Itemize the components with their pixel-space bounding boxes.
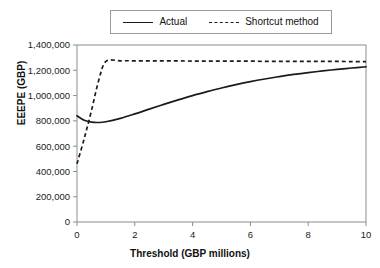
- plot-area: 0200,000400,000600,000800,0001,000,0001,…: [0, 0, 380, 268]
- x-axis-title: Threshold (GBP millions): [0, 248, 380, 259]
- series-line-actual: [77, 67, 366, 123]
- x-axis-tick-labels: 0246810: [74, 229, 371, 240]
- y-axis-tick-marks: [73, 45, 77, 222]
- x-axis-tick-marks: [77, 222, 366, 226]
- chart-figure: Actual Shortcut method 0200,000400,00060…: [0, 0, 380, 268]
- y-axis-title-wrap: EEEPE (GBP): [11, 13, 29, 173]
- y-axis-title: EEEPE (GBP): [16, 61, 27, 125]
- x-tick-label: 2: [132, 229, 137, 240]
- y-tick-label: 400,000: [36, 166, 70, 177]
- y-tick-label: 200,000: [36, 191, 70, 202]
- y-tick-label: 800,000: [36, 115, 70, 126]
- y-tick-label: 1,400,000: [28, 39, 70, 50]
- y-tick-label: 1,200,000: [28, 65, 70, 76]
- x-tick-label: 0: [74, 229, 79, 240]
- x-tick-label: 8: [306, 229, 311, 240]
- x-tick-label: 10: [361, 229, 372, 240]
- x-tick-label: 4: [190, 229, 195, 240]
- y-tick-label: 0: [65, 216, 70, 227]
- x-tick-label: 6: [248, 229, 253, 240]
- y-tick-label: 600,000: [36, 141, 70, 152]
- series-line-shortcut-method: [77, 60, 366, 164]
- y-tick-label: 1,000,000: [28, 90, 70, 101]
- y-axis-tick-labels: 0200,000400,000600,000800,0001,000,0001,…: [28, 39, 70, 227]
